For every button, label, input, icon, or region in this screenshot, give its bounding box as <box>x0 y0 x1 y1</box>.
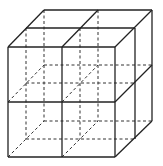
subdivided-cube-diagram <box>0 0 163 166</box>
